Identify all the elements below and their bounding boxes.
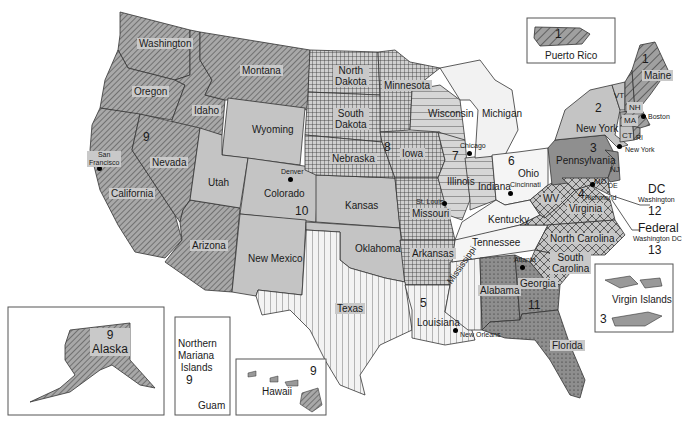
city-dot-new-york — [617, 144, 622, 149]
city-cincinnati: Cincinnati — [510, 181, 541, 189]
city-st-louis: St. Louis — [416, 198, 443, 206]
label-rhode-island: RI — [636, 132, 643, 143]
alaska-label: 9Alaska — [90, 328, 130, 356]
city-dot-chicago — [467, 151, 472, 156]
city-dot-new-orleans — [453, 328, 458, 333]
label-vermont: VT — [614, 90, 624, 101]
label-south-carolina: SouthCarolina — [550, 252, 591, 274]
label-arizona: Arizona — [190, 240, 228, 251]
label-pennsylvania: Pennsylvania — [556, 155, 615, 166]
northern-mariana-region: 9 — [186, 374, 193, 387]
label-new-hampshire: NH — [627, 102, 643, 113]
city-new-orleans: New Orleans — [460, 331, 500, 339]
region-number-3: 3 — [590, 142, 597, 155]
label-north-carolina: North Carolina — [548, 233, 616, 244]
label-utah: Utah — [208, 177, 229, 188]
label-south-dakota: SouthDakota — [333, 108, 369, 130]
region-number-2: 2 — [595, 102, 602, 115]
region-number-7: 7 — [452, 150, 459, 163]
puerto-rico-label: Puerto Rico — [545, 50, 597, 61]
label-west-virginia: WV — [541, 193, 561, 204]
virgin-islands-region: 3 — [600, 313, 607, 326]
virgin-islands-label: Virgin Islands — [612, 294, 672, 305]
label-connecticut: CT — [622, 130, 633, 141]
label-montana: Montana — [240, 65, 283, 76]
region-number-10: 10 — [295, 205, 308, 218]
federal-washington-dc-label: Washington DC — [633, 235, 682, 243]
region-number-11: 11 — [528, 299, 540, 312]
region-number-12: 12 — [648, 205, 661, 218]
city-dot-denver — [288, 177, 293, 182]
label-nebraska: Nebraska — [330, 153, 377, 164]
region-number-9: 9 — [143, 131, 150, 144]
label-new-jersey: NJ — [610, 164, 620, 175]
label-michigan: Michigan — [482, 108, 522, 119]
label-oklahoma: Oklahoma — [355, 243, 401, 254]
city-new-york: New York — [625, 146, 655, 154]
city-richmond: Richmond — [585, 194, 617, 202]
label-tennessee: Tennessee — [472, 237, 520, 248]
city-chicago: Chicago — [460, 142, 486, 150]
puerto-rico-shape[interactable] — [534, 27, 590, 46]
hawaii-label: Hawaii — [262, 386, 292, 397]
label-wyoming: Wyoming — [252, 124, 294, 135]
label-georgia: Georgia — [518, 278, 558, 289]
label-california: California — [109, 188, 155, 199]
region-number-8: 8 — [384, 141, 391, 154]
label-colorado: Colorado — [264, 188, 305, 199]
puerto-rico-region: 1 — [555, 28, 562, 41]
dc-label: DC — [648, 183, 665, 196]
label-nevada: Nevada — [150, 157, 188, 168]
label-missouri: Missouri — [410, 208, 451, 219]
region-number-4: 4 — [578, 188, 585, 201]
label-kentucky: Kentucky — [488, 214, 529, 225]
label-arkansas: Arkansas — [410, 248, 456, 259]
label-illinois: Illinois — [447, 176, 475, 187]
region-number-13: 13 — [648, 244, 661, 257]
label-florida: Florida — [550, 340, 585, 351]
city-dot-boston — [641, 114, 646, 119]
label-maryland: MD — [594, 176, 606, 187]
state-florida[interactable] — [482, 310, 585, 398]
city-dot-atlanta — [520, 265, 525, 270]
city-dot-cincinnati — [508, 191, 513, 196]
label-kansas: Kansas — [345, 200, 378, 211]
city-boston: Boston — [648, 113, 670, 121]
guam-label: Guam — [198, 400, 225, 411]
label-maine: Maine — [642, 70, 673, 81]
label-idaho: Idaho — [192, 105, 221, 116]
label-alabama: Alabama — [478, 285, 521, 296]
label-north-dakota: NorthDakota — [333, 65, 369, 87]
dc-washington-label: Washington — [638, 196, 675, 204]
label-washington: Washington — [137, 38, 193, 49]
label-wisconsin: Wisconsin — [428, 108, 474, 119]
label-louisiana: Louisiana — [417, 317, 460, 328]
city-denver: Denver — [281, 168, 304, 176]
city-san-francisco: SanFrancisco — [87, 151, 121, 167]
label-virginia: Virginia — [567, 203, 604, 214]
hawaii-region: 9 — [310, 365, 317, 378]
label-ohio: Ohio — [518, 168, 539, 179]
label-texas: Texas — [335, 303, 365, 314]
city-atlanta: Atlanta — [514, 256, 536, 264]
label-oregon: Oregon — [132, 86, 169, 97]
region-number-6: 6 — [508, 155, 515, 168]
northern-mariana-label: NorthernMariana Islands — [178, 338, 217, 374]
label-massachusetts: MA — [622, 115, 638, 126]
label-delaware: DE — [608, 180, 618, 191]
label-iowa: Iowa — [400, 148, 425, 159]
label-minnesota: Minnesota — [382, 80, 432, 91]
label-indiana: Indiana — [478, 181, 511, 192]
federal-label: Federal — [638, 222, 679, 235]
label-new-york: New York — [576, 123, 618, 134]
region-number-5: 5 — [420, 297, 427, 310]
city-dot-richmond — [590, 182, 595, 187]
region-number-1: 1 — [642, 53, 649, 66]
label-new-mexico: New Mexico — [248, 253, 302, 264]
